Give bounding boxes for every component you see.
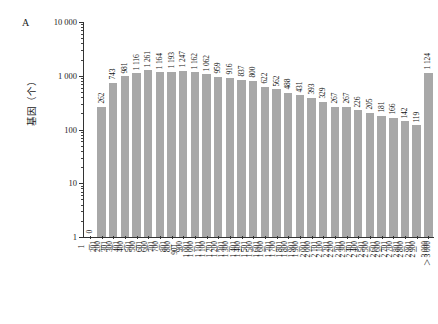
y-tick-minor [81,192,84,193]
x-tick [428,236,429,239]
bar-slot: 1 193 [166,22,178,237]
y-tick-minor [81,38,84,39]
x-tick [195,236,196,239]
bar [377,116,385,237]
x-tick [183,236,184,239]
bar-slot: 622 [259,22,271,237]
x-tick [218,236,219,239]
y-tick-label: 1 [73,232,77,242]
bar-value-label: 1 062 [202,55,210,72]
bar-value-label: 837 [237,66,245,77]
y-tick-minor [81,81,84,82]
x-label-slot: 2 901－3 000 [411,239,423,323]
bar [214,77,222,237]
y-tick-minor [81,24,84,25]
y-tick-minor [81,205,84,206]
y-tick-label: 10 000 [54,17,77,27]
bar-slot: 1 247 [177,22,189,237]
bar-slot: 393 [306,22,318,237]
bar-slot: 431 [294,22,306,237]
y-tick-minor [81,132,84,133]
bar [226,78,234,237]
x-tick [358,236,359,239]
bar-value-label: 1 164 [156,53,164,70]
y-tick-minor [81,78,84,79]
bar-slot: 1 116 [131,22,143,237]
bar-slot: 142 [399,22,411,237]
bar [97,107,105,237]
x-tick [230,236,231,239]
y-tick-minor [81,167,84,168]
y-tick-minor [81,158,84,159]
x-tick [90,236,91,239]
bar-value-label: 166 [389,104,397,115]
x-tick [382,236,383,239]
bar-value-label: 1 193 [167,52,175,69]
bar-slot: 916 [224,22,236,237]
bar-value-label: 393 [307,83,315,94]
bar-value-label: 0 [86,230,94,234]
bar [249,81,257,237]
bar-slot: 329 [317,22,329,237]
bar-value-label: 226 [354,96,362,107]
bar-slot: 267 [329,22,341,237]
plot-area: 10 0001 000100101 02627439811 1161 2611 … [83,22,434,237]
x-tick [288,236,289,239]
bar [284,93,292,238]
y-tick-minor [81,188,84,189]
y-tick-minor [81,43,84,44]
bar-slot: 562 [271,22,283,237]
y-tick-minor [81,92,84,93]
bar [424,73,432,237]
y-tick-minor [81,141,84,142]
y-tick-minor [81,135,84,136]
y-tick-minor [81,151,84,152]
x-tick [347,236,348,239]
y-tick-major [79,22,83,23]
x-axis-tick-labels: 1－200201－300301－400401－500501－600601－700… [84,239,434,323]
y-tick-minor [81,211,84,212]
bar [307,98,315,237]
y-tick-minor [81,30,84,31]
x-tick-label: ＞3 000 [424,241,432,266]
bar-value-label: 181 [377,102,385,113]
y-tick-minor [81,195,84,196]
panel-label: A [22,17,29,28]
x-tick [207,236,208,239]
bar-slot: 743 [107,22,119,237]
y-tick-minor [81,84,84,85]
x-tick [242,236,243,239]
y-tick-minor [81,113,84,114]
bar [202,74,210,237]
y-tick-major [79,130,83,131]
x-tick [265,236,266,239]
bar-slot: 1 062 [201,22,213,237]
bar-slot: 959 [212,22,224,237]
y-tick-label: 100 [64,125,77,135]
x-tick [300,236,301,239]
y-tick-minor [81,104,84,105]
x-tick [277,236,278,239]
y-tick-minor [81,146,84,147]
bar [121,76,129,237]
x-tick [102,236,103,239]
bar [179,71,187,237]
bar-slot: 1 261 [142,22,154,237]
bar [354,110,362,237]
bar-slot: 0 [84,22,96,237]
y-tick-minor [81,221,84,222]
y-tick-major [79,183,83,184]
bar-value-label: 267 [331,92,339,103]
bar-value-label: 262 [97,93,105,104]
x-tick [323,236,324,239]
bar-value-label: 916 [226,64,234,75]
bar-value-label: 488 [284,78,292,89]
x-tick [172,236,173,239]
bar-slot: 488 [282,22,294,237]
bar-value-label: 800 [249,67,257,78]
bar-series: 02627439811 1161 2611 1641 1931 2471 162… [84,22,434,237]
bar [261,87,269,237]
bar [401,121,409,237]
x-tick [113,236,114,239]
bar [319,102,327,237]
